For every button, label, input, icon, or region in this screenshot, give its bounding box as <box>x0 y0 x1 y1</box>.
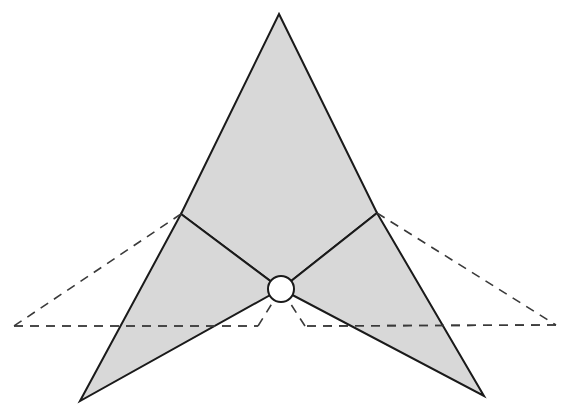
folding-diagram <box>0 0 566 419</box>
pivot-joint-icon <box>268 276 294 302</box>
solid-outline <box>14 325 556 326</box>
filled-regions <box>80 14 484 401</box>
